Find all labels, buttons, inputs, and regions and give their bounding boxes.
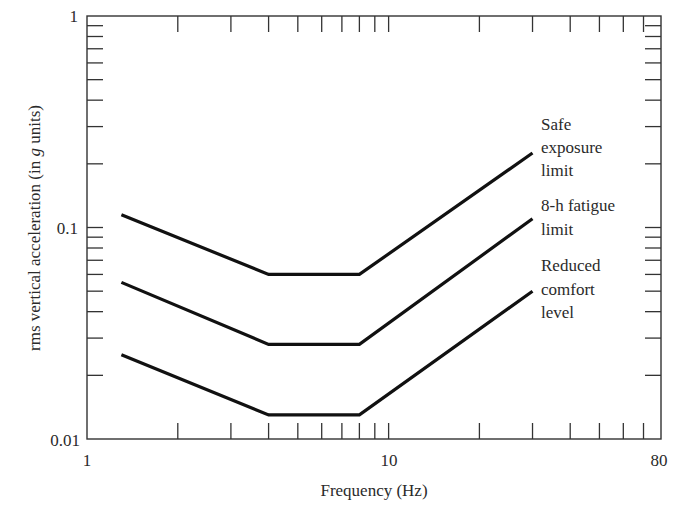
svg-text:Safe: Safe — [541, 115, 571, 134]
y-tick-label-1: 1 — [70, 7, 79, 26]
y-tick-label-0.01: 0.01 — [50, 431, 80, 450]
series-label-reduced-comfort: Reduced comfort level — [541, 256, 601, 322]
y-tick-label-0.1: 0.1 — [57, 219, 78, 238]
series-label-safe-exposure: Safe exposure limit — [541, 115, 602, 180]
8h-fatigue-limit-line — [121, 219, 532, 345]
svg-text:8-h fatigue: 8-h fatigue — [541, 196, 615, 215]
series-lines — [121, 153, 532, 415]
x-axis-title: Frequency (Hz) — [320, 481, 427, 500]
x-tick-label-80: 80 — [651, 451, 668, 470]
svg-text:limit: limit — [541, 220, 573, 239]
x-tick-label-1: 1 — [83, 451, 92, 470]
svg-text:exposure: exposure — [541, 138, 602, 157]
svg-text:Reduced: Reduced — [541, 256, 601, 275]
svg-text:limit: limit — [541, 161, 573, 180]
svg-text:comfort: comfort — [541, 280, 595, 299]
x-tick-label-10: 10 — [381, 451, 398, 470]
series-label-8h-fatigue: 8-h fatigue limit — [541, 196, 615, 239]
safe-exposure-limit-line — [121, 153, 532, 274]
y-axis-title: rms vertical acceleration (in g units) — [25, 105, 44, 351]
svg-text:level: level — [541, 303, 574, 322]
vibration-exposure-chart: 1 0.1 0.01 1 10 80 Frequency (Hz) rms ve… — [0, 0, 679, 508]
